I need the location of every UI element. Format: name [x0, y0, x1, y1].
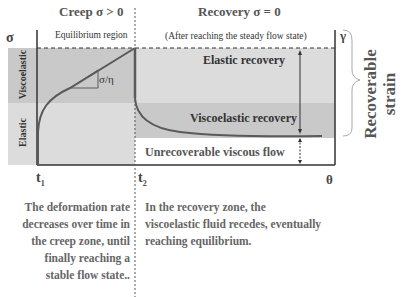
equilibrium-region-label: Equilibrium region [55, 30, 128, 40]
slope-label: σ/η [99, 73, 114, 85]
unrecoverable-flow-label: Unrecoverable viscous flow [145, 145, 285, 160]
elastic-band-label: Elastic [17, 101, 28, 165]
recoverable-strain-label: Recoverable strain [361, 29, 401, 159]
theta-axis-label: θ [326, 172, 333, 188]
steady-flow-note: (After reaching the steady flow state) [165, 31, 307, 41]
gamma-axis-label: γ [340, 28, 346, 44]
sigma-axis-label: σ [6, 30, 14, 46]
viscoelastic-recovery-label: Viscoelastic recovery [190, 111, 297, 126]
creep-header: Creep σ > 0 [59, 4, 123, 20]
creep-elastic-band [37, 103, 135, 165]
recoverable-strain-brace [343, 30, 360, 136]
creep-description: The deformation rate decreases over time… [10, 199, 130, 284]
recovery-description: In the recovery zone, the viscoelastic f… [145, 199, 365, 250]
t2-label: t2 [138, 170, 147, 188]
recovery-header: Recovery σ = 0 [198, 4, 281, 20]
t1-label: t1 [36, 170, 45, 188]
viscoelastic-band-label: Viscoelastic [17, 43, 28, 107]
elastic-recovery-label: Elastic recovery [203, 53, 285, 68]
